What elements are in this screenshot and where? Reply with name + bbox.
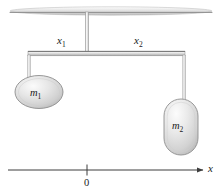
x-axis	[8, 165, 203, 176]
label-x1: x1	[56, 34, 66, 49]
label-m1-subscript: 1	[38, 92, 42, 101]
support-rod	[85, 12, 88, 54]
beam-body	[28, 51, 185, 56]
string-right-body	[183, 55, 186, 102]
physics-diagram-canvas: x1 x2 m1 m2 0 x	[0, 0, 222, 188]
label-origin: 0	[84, 177, 89, 188]
label-x-axis: x	[207, 162, 213, 174]
diagram-svg: x1 x2 m1 m2 0 x	[0, 0, 222, 188]
horizontal-beam	[28, 51, 185, 56]
string-right	[183, 55, 186, 102]
support-rod-body	[85, 12, 88, 54]
ceiling-slab	[10, 7, 212, 15]
label-x2-subscript: 2	[139, 40, 143, 49]
label-x2: x2	[133, 34, 143, 49]
label-m2-subscript: 2	[180, 125, 184, 134]
ceiling-support	[10, 7, 212, 15]
label-x1-subscript: 1	[62, 40, 66, 49]
